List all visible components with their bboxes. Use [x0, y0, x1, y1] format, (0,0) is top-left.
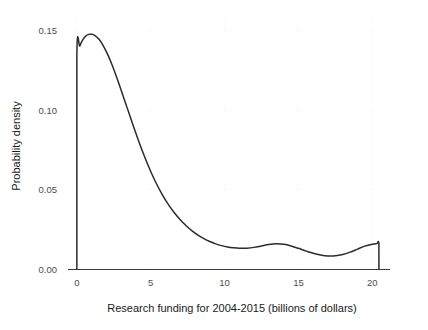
- figure-background: [0, 0, 428, 330]
- y-tick-label-0: 0.00: [39, 264, 58, 275]
- chart-canvas: 0.000.050.100.15 05101520 Research fundi…: [0, 0, 428, 330]
- x-axis-label: Research funding for 2004-2015 (billions…: [107, 302, 356, 314]
- y-tick-label-3: 0.15: [39, 25, 58, 36]
- x-tick-label-4: 20: [367, 277, 378, 288]
- y-tick-label-1: 0.05: [39, 184, 58, 195]
- x-tick-label-0: 0: [74, 277, 79, 288]
- density-plot-figure: 0.000.050.100.15 05101520 Research fundi…: [0, 0, 428, 330]
- y-axis-label: Probability density: [10, 101, 22, 191]
- x-tick-label-1: 5: [148, 277, 153, 288]
- x-tick-label-2: 10: [219, 277, 230, 288]
- x-tick-label-3: 15: [293, 277, 304, 288]
- y-tick-label-2: 0.10: [39, 105, 58, 116]
